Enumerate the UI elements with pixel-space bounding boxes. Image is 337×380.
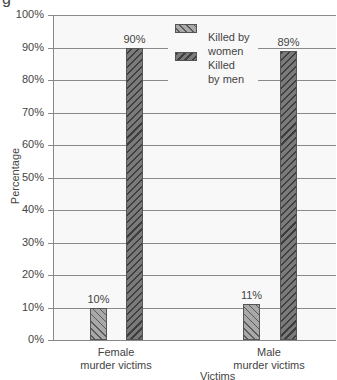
y-tick-label: 40% bbox=[0, 203, 44, 215]
bar-women-0 bbox=[90, 308, 107, 341]
bar-men-0 bbox=[126, 48, 143, 341]
legend-label-women-line1: Killed by bbox=[208, 30, 263, 44]
plot-area: Killed by women Killed by men 10%11%90%8… bbox=[53, 15, 336, 341]
y-tick-label: 20% bbox=[0, 268, 44, 280]
legend-label-men: Killed by men bbox=[208, 58, 263, 86]
y-tick-label: 10% bbox=[0, 301, 44, 313]
bar-value-label: 90% bbox=[115, 33, 155, 45]
legend-swatch-women bbox=[175, 24, 197, 33]
legend-label-men-line1: Killed bbox=[208, 58, 263, 72]
y-tick-label: 100% bbox=[0, 8, 44, 20]
gridline bbox=[54, 15, 336, 16]
legend-label-men-line2: by men bbox=[208, 72, 263, 86]
y-tick-label: 30% bbox=[0, 236, 44, 248]
legend: Killed by women Killed by men bbox=[168, 25, 258, 85]
y-tick-label: 90% bbox=[0, 41, 44, 53]
legend-swatch-men bbox=[175, 52, 197, 61]
bar-value-label: 11% bbox=[232, 289, 272, 301]
legend-label-women-line2: women bbox=[208, 44, 263, 58]
y-tick-label: 80% bbox=[0, 73, 44, 85]
bar-men-1 bbox=[280, 51, 297, 340]
y-tick-label: 50% bbox=[0, 171, 44, 183]
bar-women-1 bbox=[243, 304, 260, 340]
legend-label-women: Killed by women bbox=[208, 30, 263, 58]
y-tick-label: 70% bbox=[0, 106, 44, 118]
x-category-label: Malemurder victims bbox=[214, 346, 324, 372]
title-fragment: g bbox=[2, 0, 11, 8]
y-tick-label: 0% bbox=[0, 333, 44, 345]
y-axis-title: Percentage bbox=[9, 141, 21, 211]
bar-value-label: 89% bbox=[269, 36, 309, 48]
y-tick-label: 60% bbox=[0, 138, 44, 150]
x-category-label: Femalemurder victims bbox=[61, 346, 171, 372]
x-axis-title: Victims bbox=[200, 370, 235, 380]
bar-value-label: 10% bbox=[79, 293, 119, 305]
